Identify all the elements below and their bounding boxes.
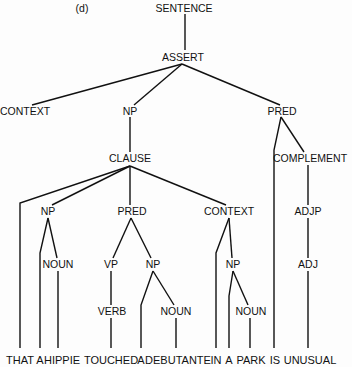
node-pred-clause: PRED [117,205,147,217]
node-noun-subject: NOUN [43,258,74,270]
edge-np-a2 [141,271,153,348]
node-noun-object: NOUN [161,305,192,317]
node-np-top: NP [123,105,138,117]
edge-np-a3 [229,271,233,348]
node-np-object: NP [146,258,161,270]
edge-pred-complement [281,117,304,152]
word-in: IN [211,354,222,366]
node-vp: VP [104,258,118,270]
parse-tree-diagram: (d) SENTENCE ASSERT CONTEXT NP PRED CLAU… [0,0,352,367]
node-sentence: SENTENCE [155,2,212,14]
node-complement: COMPLEMENT [273,152,348,164]
node-np-location: NP [226,258,241,270]
word-unusual: UNUSUAL [284,354,337,366]
edge-pred-np [131,218,151,258]
word-a: A [225,354,233,366]
tree-edges [20,14,308,348]
node-context-top: CONTEXT [0,105,51,117]
word-that: THAT [6,354,34,366]
edge-np-noun [48,218,57,258]
node-context-clause: CONTEXT [204,205,255,217]
word-debutante: DEBUTANTE [145,354,211,366]
node-np-subject: NP [41,205,56,217]
edge-pred-vp [113,218,131,258]
edge-assert-pred [182,64,280,105]
edge-context-in [216,218,229,348]
node-pred-top: PRED [267,105,297,117]
edge-np-a [40,218,48,348]
node-clause: CLAUSE [109,152,151,164]
edge-np-noun2 [153,271,174,305]
sentence-words: THAT A HIPPIE TOUCHED A DEBUTANTE IN A P… [6,354,336,366]
node-verb: VERB [98,305,127,317]
edge-context-np [229,218,232,258]
edge-np-noun3 [233,271,248,305]
word-hippie: HIPPIE [44,354,80,366]
word-park: PARK [236,354,266,366]
node-assert: ASSERT [162,51,204,63]
edge-clause-np [52,166,130,205]
edge-assert-context [32,64,182,105]
node-noun-location: NOUN [236,305,267,317]
word-is: IS [270,354,280,366]
word-touched: TOUCHED [84,354,138,366]
tree-nodes: (d) SENTENCE ASSERT CONTEXT NP PRED CLAU… [0,2,348,317]
node-adjp: ADJP [295,205,322,217]
edge-clause-context [130,166,226,205]
node-adj: ADJ [298,258,318,270]
figure-label: (d) [76,2,89,14]
